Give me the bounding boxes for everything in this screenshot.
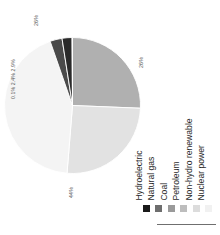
legend-item[interactable]: Nuclear power [205,112,217,212]
slice-label-nuclear-power: 26% [139,57,144,68]
legend-item-label: Natural gas [148,157,157,201]
legend-swatch-icon [155,205,162,212]
pie-slice [73,38,141,109]
legend-swatch-icon [193,205,200,212]
slice-label-small-slices: 0.1% 2.4% 2.9% [11,59,16,99]
footer-rule [157,224,216,225]
pie-slice-group [5,37,141,173]
pie-slice [67,106,140,174]
legend-swatch-icon [180,205,187,212]
legend-item-label: Non-hydro renewable [185,119,194,201]
legend-swatch-icon [168,205,175,212]
legend: HydroelectricNatural gasCoalPetroleumNon… [143,112,219,212]
legend-item-label: Hydroelectric [135,151,144,201]
legend-swatch-icon [143,205,150,212]
pie-chart-figure: 26% 26% 44% 0.1% 2.4% 2.9% Hydroelectric… [0,0,220,235]
legend-item-label: Nuclear power [197,146,206,201]
legend-item-label: Coal [160,183,169,201]
pie-svg [4,37,141,174]
slice-label-natural-gas: 26% [34,15,39,26]
legend-swatch-icon [205,205,212,212]
legend-item-label: Petroleum [173,162,182,201]
pie-plot-area [4,37,141,174]
slice-label-coal: 44% [69,187,74,198]
